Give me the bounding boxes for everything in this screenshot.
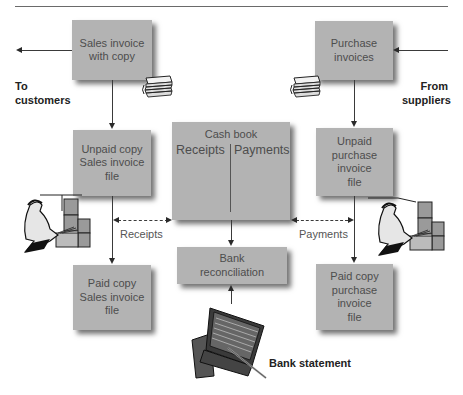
unpaid-sales-box: Unpaid copy Sales invoice file (73, 130, 151, 196)
paid-purchase-text: Paid copy purchase invoice file (330, 270, 378, 324)
purchase-invoices-text: Purchase invoices (331, 37, 377, 64)
unpaid-to-paid-sales-arrowhead (109, 258, 115, 264)
payments-label: Payments (299, 228, 348, 240)
receipts-arrowhead-right (166, 217, 172, 223)
to-customers-arrowhead (16, 47, 22, 53)
unpaid-to-paid-purchase-line (354, 196, 355, 258)
paper-stack-icon (290, 74, 324, 100)
cash-book-box: Cash book Receipts Payments (172, 122, 290, 220)
top-rule (15, 6, 448, 7)
paid-sales-text: Paid copy Sales invoice file (80, 277, 145, 318)
paid-sales-box: Paid copy Sales invoice file (73, 265, 151, 330)
filing-clerk-icon (368, 196, 448, 256)
from-suppliers-arrowhead (393, 47, 399, 53)
paid-purchase-box: Paid copy purchase invoice file (316, 264, 393, 330)
bank-reconciliation-text: Bank reconciliation (200, 252, 264, 279)
cashbook-to-bank-line (231, 220, 232, 241)
receipts-label: Receipts (120, 228, 163, 240)
payments-arrowhead-right (348, 217, 354, 223)
receipts-dashed-line (118, 220, 168, 221)
unpaid-purchase-box: Unpaid purchase invoice file (316, 128, 393, 196)
payments-dashed-line (296, 220, 348, 221)
bank-statement-book-icon (188, 304, 268, 380)
from-suppliers-label: From suppliers (402, 79, 448, 107)
unpaid-to-paid-sales-line (112, 196, 113, 259)
purchase-to-unpaid-arrowhead (351, 121, 357, 127)
sales-to-unpaid-line (112, 80, 113, 124)
unpaid-purchase-text: Unpaid purchase invoice file (332, 135, 377, 189)
payments-arrowhead-left (291, 217, 297, 223)
cash-book-receipts-col: Receipts (176, 144, 225, 158)
cash-book-payments-col: Payments (234, 144, 290, 158)
cash-book-divider (230, 144, 231, 212)
filing-clerk-icon (20, 193, 100, 253)
unpaid-sales-text: Unpaid copy Sales invoice file (80, 143, 145, 184)
statement-to-bank-line (231, 290, 232, 304)
sales-to-unpaid-arrowhead (109, 123, 115, 129)
purchase-invoices-box: Purchase invoices (315, 21, 393, 80)
from-suppliers-line (395, 50, 448, 51)
bank-reconciliation-box: Bank reconciliation (177, 247, 287, 284)
to-customers-label: To customers (15, 79, 71, 107)
statement-to-bank-arrowhead (228, 285, 234, 291)
paper-stack-icon (140, 74, 174, 100)
to-customers-line (20, 50, 72, 51)
sales-invoice-text: Sales invoice with copy (80, 37, 145, 64)
receipts-arrowhead-left (113, 217, 119, 223)
cash-book-title: Cash book (172, 128, 290, 142)
unpaid-to-paid-purchase-arrowhead (351, 257, 357, 263)
sales-invoice-box: Sales invoice with copy (72, 20, 152, 80)
cashbook-to-bank-arrowhead (228, 240, 234, 246)
purchase-to-unpaid-line (354, 80, 355, 122)
bank-statement-label: Bank statement (269, 356, 351, 370)
